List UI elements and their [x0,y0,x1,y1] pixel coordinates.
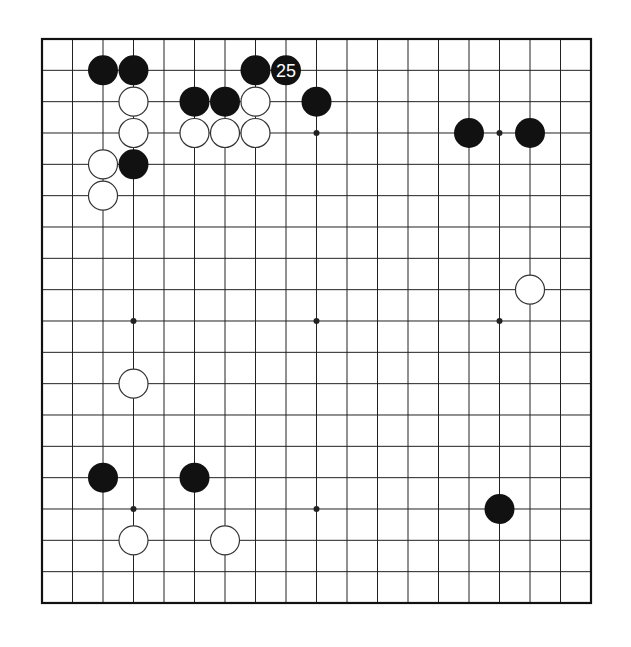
star-point [497,130,503,136]
white-stone [119,87,148,116]
white-stone-icon [89,150,118,179]
white-stone [119,526,148,555]
white-stone [119,369,148,398]
white-stone-icon [241,118,270,147]
white-stone-icon [180,118,209,147]
star-point [314,318,320,324]
black-stone [88,463,118,493]
white-stone-icon [89,181,118,210]
white-stone-icon [119,118,148,147]
black-stone-icon [302,87,332,117]
black-stone-icon [88,463,118,493]
white-stone-icon [516,275,545,304]
white-stone [89,181,118,210]
go-board: 25 [0,0,631,647]
black-stone-icon [88,55,118,85]
black-stone [119,55,149,85]
black-stone-icon [210,87,240,117]
black-stone-icon [180,463,210,493]
go-board-diagram: 25 [0,0,631,647]
black-stone-icon [485,494,515,524]
white-stone [241,118,270,147]
black-stone-icon [515,118,545,148]
white-stone-icon [119,87,148,116]
move-number-label: 25 [276,61,296,81]
black-stone [302,87,332,117]
black-stone [241,55,271,85]
black-stone [88,55,118,85]
black-stone: 25 [271,55,301,85]
black-stone-icon [119,149,149,179]
black-stone [180,87,210,117]
white-stone [211,526,240,555]
black-stone-icon [119,55,149,85]
black-stone [180,463,210,493]
star-point [131,318,137,324]
star-point [131,506,137,512]
white-stone-icon [241,87,270,116]
white-stone-icon [211,526,240,555]
white-stone [241,87,270,116]
black-stone-icon [180,87,210,117]
white-stone [89,150,118,179]
black-stone [515,118,545,148]
white-stone-icon [119,526,148,555]
black-stone-icon [454,118,484,148]
white-stone [211,118,240,147]
star-point [497,318,503,324]
black-stone-icon [241,55,271,85]
black-stone [485,494,515,524]
black-stone [119,149,149,179]
white-stone-icon [211,118,240,147]
star-point [314,130,320,136]
black-stone [454,118,484,148]
star-point [314,506,320,512]
white-stone [180,118,209,147]
white-stone-icon [119,369,148,398]
black-stone [210,87,240,117]
white-stone [516,275,545,304]
white-stone [119,118,148,147]
